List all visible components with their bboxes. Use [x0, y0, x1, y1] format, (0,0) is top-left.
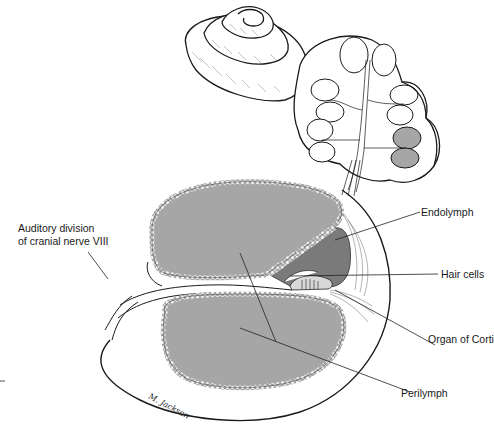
scala-tympani	[163, 294, 343, 388]
label-cranial-nerve: of cranial nerve VIII	[18, 235, 108, 247]
cochlea-shell-icon	[185, 7, 307, 101]
label-auditory-division: Auditory division	[18, 222, 94, 234]
label-perilymph: Perilymph	[401, 387, 448, 399]
label-hair-cells: Hair cells	[441, 268, 484, 280]
cochlea-section-icon	[294, 36, 439, 196]
label-organ-of-corti: Organ of Corti	[428, 333, 494, 345]
label-endolymph: Endolymph	[421, 206, 474, 218]
